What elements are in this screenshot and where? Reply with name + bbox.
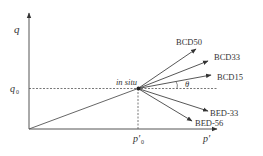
q0-subscript: 0: [16, 89, 19, 95]
label-bcd33: BCD33: [214, 52, 240, 62]
theta-label: θ: [185, 79, 189, 89]
path-bed33-arrow: [138, 89, 208, 112]
label-bcd15: BCD15: [217, 72, 243, 82]
in-situ-label: in situ: [116, 77, 137, 87]
p0-subscript: 0: [141, 139, 144, 145]
theta-arc: [176, 82, 177, 89]
y-axis-label: q: [14, 23, 20, 35]
path-bed56-arrow: [138, 89, 192, 122]
x-axis-label: p′: [202, 133, 211, 144]
in-situ-point: [137, 87, 141, 91]
stress-path-diagram: q p′ q 0 p′ 0 in situ θ BCD50 BCD33 BCD1…: [0, 0, 263, 156]
p0-label: p′: [132, 133, 141, 144]
label-bcd50: BCD50: [176, 37, 202, 47]
path-bcd15-arrow: [138, 75, 211, 89]
q0-label: q: [10, 83, 15, 94]
label-bed33: BED-33: [210, 108, 238, 118]
label-bed56: BED-56: [195, 118, 223, 128]
consolidation-path: [29, 89, 138, 130]
